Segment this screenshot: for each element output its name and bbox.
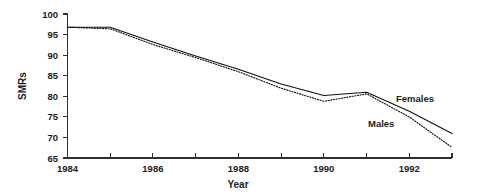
y-axis-title: SMRs	[17, 72, 28, 100]
series-line-males	[68, 27, 453, 147]
y-tick-label-85: 85	[47, 70, 58, 81]
x-tick-label-1986: 1986	[142, 163, 163, 174]
x-axis-title: Year	[227, 179, 248, 190]
chart-container: 100 95 90 85 80 75 70 65 1984 1986 1988 …	[0, 0, 480, 195]
y-tick-label-90: 90	[47, 50, 58, 61]
x-tick-label-1988: 1988	[228, 163, 249, 174]
x-tick-label-1990: 1990	[313, 163, 334, 174]
y-tick-label-70: 70	[47, 132, 58, 143]
x-axis-ticks	[68, 153, 453, 158]
y-tick-label-80: 80	[47, 91, 58, 102]
line-chart: 100 95 90 85 80 75 70 65 1984 1986 1988 …	[0, 0, 480, 195]
y-tick-label-100: 100	[42, 9, 58, 20]
series-label-females: Females	[396, 93, 434, 104]
y-axis-ticks	[63, 14, 68, 158]
series-label-males: Males	[368, 118, 394, 129]
y-tick-label-95: 95	[47, 29, 58, 40]
x-tick-label-1992: 1992	[399, 163, 420, 174]
x-tick-label-1984: 1984	[57, 163, 79, 174]
y-tick-label-75: 75	[47, 111, 58, 122]
y-tick-label-65: 65	[47, 153, 58, 164]
